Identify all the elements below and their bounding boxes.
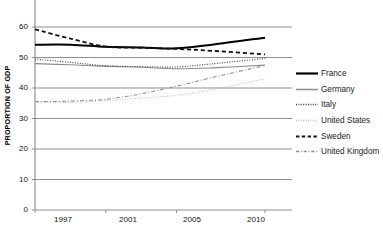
legend-item-united-states[interactable]: United States xyxy=(296,113,383,129)
chart-legend: France Germany Italy United States Swede… xyxy=(296,66,383,160)
legend-label-france: France xyxy=(321,69,346,78)
series-line-united-states xyxy=(35,79,265,103)
series-line-italy xyxy=(35,58,265,67)
legend-label-sweden: Sweden xyxy=(321,132,351,141)
legend-swatch-france xyxy=(296,68,318,79)
legend-item-italy[interactable]: Italy xyxy=(296,97,383,113)
legend-item-united-kingdom[interactable]: United Kingdom xyxy=(296,144,383,160)
legend-label-germany: Germany xyxy=(321,85,355,94)
legend-label-united-states: United States xyxy=(321,116,370,125)
legend-swatch-italy xyxy=(296,99,318,110)
legend-label-italy: Italy xyxy=(321,100,336,109)
legend-item-france[interactable]: France xyxy=(296,66,383,82)
legend-swatch-united-states xyxy=(296,115,318,126)
series-line-united-kingdom xyxy=(35,65,265,101)
legend-label-united-kingdom: United Kingdom xyxy=(321,147,379,156)
legend-swatch-united-kingdom xyxy=(296,146,318,157)
series-line-germany xyxy=(35,64,265,69)
line-chart-figure: PROPORTION OF GDP 60 50 40 30 20 10 0 19… xyxy=(0,0,383,237)
legend-item-germany[interactable]: Germany xyxy=(296,82,383,98)
legend-swatch-germany xyxy=(296,84,318,95)
legend-item-sweden[interactable]: Sweden xyxy=(296,128,383,144)
legend-swatch-sweden xyxy=(296,131,318,142)
